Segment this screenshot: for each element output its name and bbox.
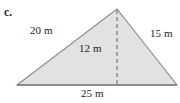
right-side-length-label: 15 m bbox=[150, 27, 173, 39]
height-length-label: 12 m bbox=[79, 42, 102, 54]
geometry-figure: c. 20 m 15 m 12 m 25 m bbox=[0, 0, 180, 103]
left-side-length-label: 20 m bbox=[30, 24, 53, 36]
part-letter-label: c. bbox=[4, 6, 12, 18]
base-length-label: 25 m bbox=[81, 87, 104, 99]
